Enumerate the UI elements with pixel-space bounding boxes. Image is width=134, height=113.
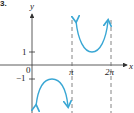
y-axis-label: y [30,2,34,11]
origin-label: 0 [26,66,31,75]
x-tick-label-pi: π [69,68,74,77]
graph-canvas [0,0,134,113]
x-tick-label-2pi: 2π [105,68,114,77]
curve-branch-upper [76,21,108,52]
figure-number: 3. [0,0,7,8]
curve-branch-lower [36,79,68,106]
x-axis-label: x [129,62,133,71]
y-tick-label-neg1: −1 [16,74,26,83]
y-tick-label-1: 1 [22,48,27,57]
